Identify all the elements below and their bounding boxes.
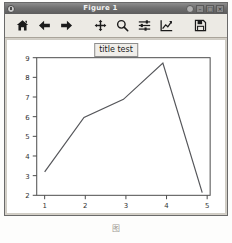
arrow-right-icon <box>60 19 73 32</box>
y-axis-ticks <box>33 58 37 196</box>
plot-area: 2 3 4 5 6 7 8 9 1 <box>7 40 225 213</box>
move-cross-icon <box>94 19 107 32</box>
arrow-left-icon <box>38 19 51 32</box>
y-tick-label: 3 <box>25 173 29 181</box>
magnifier-icon <box>116 19 129 32</box>
x-tick-label: 1 <box>42 202 46 210</box>
page-background: 使用工具栏 绘图调整显示 Figure 1 – □ × <box>0 0 232 243</box>
line-chart-icon <box>160 19 173 32</box>
x-tick-label: 3 <box>124 202 128 210</box>
toolbar-separator-2 <box>177 25 189 26</box>
x-axis-tick-labels: 1 2 3 4 5 <box>42 202 209 210</box>
y-tick-label: 2 <box>25 192 29 200</box>
x-tick-label: 2 <box>83 202 87 210</box>
y-tick-label: 9 <box>25 55 29 63</box>
y-tick-label: 6 <box>25 114 29 122</box>
figure-window: Figure 1 – □ × <box>4 2 228 216</box>
y-tick-label: 4 <box>25 153 29 161</box>
plot-title: title test <box>94 43 138 57</box>
navigation-toolbar <box>5 14 227 38</box>
figure-caption: 图 <box>0 222 232 233</box>
home-button[interactable] <box>11 16 33 36</box>
maximize-button[interactable]: □ <box>206 5 214 13</box>
pan-button[interactable] <box>89 16 111 36</box>
zoom-button[interactable] <box>111 16 133 36</box>
home-icon <box>16 19 29 32</box>
window-controls: – □ × <box>186 5 225 13</box>
y-tick-label: 8 <box>25 74 29 82</box>
close-button[interactable]: × <box>216 5 224 13</box>
window-menu-dot[interactable] <box>186 5 194 13</box>
toolbar-separator-1 <box>77 25 89 26</box>
edit-axis-button[interactable] <box>155 16 177 36</box>
app-icon <box>7 5 15 13</box>
sliders-icon <box>138 19 151 32</box>
back-button[interactable] <box>33 16 55 36</box>
minimize-button[interactable]: – <box>196 5 204 13</box>
x-axis-ticks <box>45 195 208 199</box>
x-tick-label: 5 <box>205 202 209 210</box>
y-axis-tick-labels: 2 3 4 5 6 7 8 9 <box>25 55 29 201</box>
forward-button[interactable] <box>55 16 77 36</box>
figure-canvas[interactable]: title test 2 3 4 <box>6 39 226 214</box>
caption-label: 图 <box>112 224 120 233</box>
x-tick-label: 4 <box>164 202 168 210</box>
y-tick-label: 5 <box>25 133 29 141</box>
y-tick-label: 7 <box>25 94 29 102</box>
window-title: Figure 1 <box>15 3 186 14</box>
configure-subplots-button[interactable] <box>133 16 155 36</box>
window-titlebar[interactable]: Figure 1 – □ × <box>5 3 227 14</box>
save-button[interactable] <box>189 16 211 36</box>
floppy-disk-icon <box>194 19 207 32</box>
